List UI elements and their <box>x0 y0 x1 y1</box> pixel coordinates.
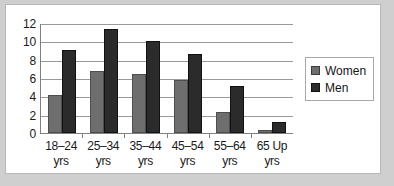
bar-men[interactable] <box>104 29 118 133</box>
x-axis-tick <box>209 134 210 138</box>
legend-item-men: Men <box>311 79 366 96</box>
x-axis-label: 35–44yrs <box>124 139 166 169</box>
bar-women[interactable] <box>132 74 146 133</box>
y-axis-tick-labels: 024681012 <box>14 5 36 175</box>
bar-group <box>167 24 209 133</box>
y-axis-tick-label: 0 <box>14 128 36 140</box>
x-axis-tick <box>251 134 252 138</box>
x-axis-tick <box>124 134 125 138</box>
x-axis-label: 65 Upyrs <box>251 139 293 169</box>
x-axis-tick <box>167 134 168 138</box>
chart-legend: Women Men <box>305 57 374 101</box>
bar-women[interactable] <box>48 95 62 133</box>
bar-men[interactable] <box>272 122 286 133</box>
legend-item-women: Women <box>311 62 366 79</box>
legend-label-men: Men <box>325 82 348 94</box>
plot-area <box>40 24 293 134</box>
x-axis-label: 25–34yrs <box>82 139 124 169</box>
x-axis-ticks <box>40 134 293 138</box>
y-axis-tick-label: 2 <box>14 110 36 122</box>
x-axis-label: 18–24yrs <box>40 139 82 169</box>
bar-groups <box>41 24 293 133</box>
x-axis-tick <box>82 134 83 138</box>
legend-label-women: Women <box>325 65 366 77</box>
bar-men[interactable] <box>188 54 202 133</box>
x-axis-label: 55–64yrs <box>209 139 251 169</box>
y-axis-tick-label: 10 <box>14 36 36 48</box>
bar-women[interactable] <box>174 80 188 133</box>
bar-group <box>209 24 251 133</box>
y-axis-tick-label: 12 <box>14 18 36 30</box>
x-axis-label: 45–54yrs <box>167 139 209 169</box>
legend-swatch-men-icon <box>311 83 320 92</box>
bar-women[interactable] <box>216 112 230 133</box>
y-axis-tick-label: 4 <box>14 91 36 103</box>
bar-men[interactable] <box>230 86 244 133</box>
bar-chart-figure: 024681012 18–24yrs25–34yrs35–44yrs45–54y… <box>6 5 382 175</box>
chart-card: 024681012 18–24yrs25–34yrs35–44yrs45–54y… <box>5 4 381 174</box>
bar-men[interactable] <box>146 41 160 133</box>
bar-men[interactable] <box>62 50 76 133</box>
bar-group <box>83 24 125 133</box>
bar-women[interactable] <box>258 130 272 133</box>
legend-swatch-women-icon <box>311 66 320 75</box>
y-axis-tick-label: 8 <box>14 55 36 67</box>
y-axis-tick-label: 6 <box>14 73 36 85</box>
x-axis-category-labels: 18–24yrs25–34yrs35–44yrs45–54yrs55–64yrs… <box>40 139 293 169</box>
bar-group <box>125 24 167 133</box>
bar-group <box>251 24 293 133</box>
bar-women[interactable] <box>90 71 104 133</box>
bar-group <box>41 24 83 133</box>
